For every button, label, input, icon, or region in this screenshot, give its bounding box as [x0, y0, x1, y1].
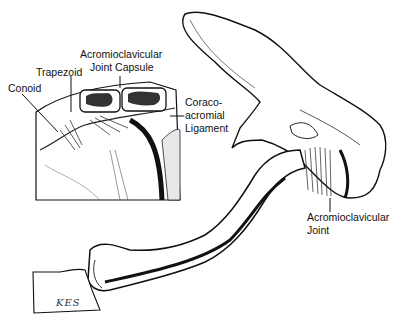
label-coracoacromial-2: acromial — [185, 109, 225, 121]
label-coracoacromial-3: Ligament — [185, 122, 228, 134]
label-conoid: Conoid — [8, 82, 41, 94]
inset-detail — [36, 82, 180, 200]
label-trapezoid: Trapezoid — [36, 66, 82, 78]
label-ac-joint-1: Acromioclavicular — [307, 211, 389, 223]
label-ac-capsule-2: Joint Capsule — [90, 61, 154, 73]
label-coracoacromial-1: Coraco- — [185, 96, 222, 108]
label-ac-capsule-1: Acromioclavicular — [80, 48, 162, 60]
artist-signature: KES — [56, 297, 81, 308]
anatomy-illustration — [0, 0, 399, 320]
label-ac-joint-2: Joint — [307, 224, 329, 236]
